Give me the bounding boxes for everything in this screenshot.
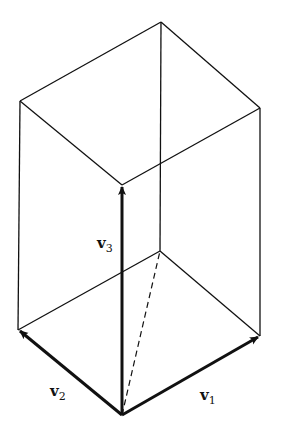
vector-v1-arrow <box>122 337 258 415</box>
diagram-svg <box>0 0 286 432</box>
edge-top-front-right <box>122 108 260 185</box>
edge-vertical-back <box>160 22 161 251</box>
edge-top-front-left <box>20 101 122 185</box>
vector-v2-arrow <box>20 331 122 415</box>
parallelepiped-diagram: v1 v2 v3 <box>0 0 286 432</box>
edge-bottom-back-right <box>160 251 260 336</box>
edge-top-right <box>161 22 260 108</box>
label-v3: v3 <box>97 236 113 254</box>
edge-vertical-left <box>18 101 20 330</box>
diagonal-dashed <box>122 251 160 415</box>
label-v2: v2 <box>50 384 66 402</box>
basis-vectors <box>20 187 258 415</box>
box-edges <box>18 22 260 336</box>
edge-top-left <box>20 22 161 101</box>
label-v1: v1 <box>200 388 216 406</box>
edge-bottom-back-left <box>18 251 160 330</box>
